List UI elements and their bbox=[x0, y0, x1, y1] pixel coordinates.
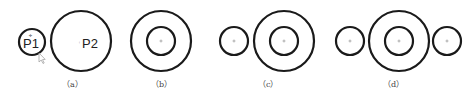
panel-b: （b） bbox=[131, 11, 191, 89]
panel-d: （d） bbox=[336, 11, 461, 89]
figure-canvas: P1 + P2 + （a） （b） （c） bbox=[0, 0, 475, 94]
label-p1: P1 bbox=[23, 36, 39, 51]
panel-label-a: （a） bbox=[62, 80, 83, 89]
center-mark bbox=[283, 40, 286, 43]
label-p2: P2 bbox=[82, 36, 98, 51]
circle-construction-figure: P1 + P2 + （a） （b） （c） bbox=[0, 0, 475, 94]
panel-label-d: （d） bbox=[383, 80, 404, 89]
circle-p2 bbox=[51, 11, 111, 71]
center-mark bbox=[160, 40, 163, 43]
center-mark bbox=[446, 40, 449, 43]
panel-c: （c） bbox=[220, 11, 314, 89]
panel-label-b: （b） bbox=[151, 80, 172, 89]
center-mark-p2: + bbox=[78, 40, 81, 45]
center-mark bbox=[398, 40, 401, 43]
center-mark bbox=[233, 40, 236, 43]
center-mark-p1: + bbox=[29, 33, 32, 38]
panel-label-c: （c） bbox=[258, 80, 278, 89]
cursor-arrow-icon bbox=[39, 53, 45, 64]
center-mark bbox=[349, 40, 352, 43]
panel-a: P1 + P2 + （a） bbox=[19, 11, 111, 89]
